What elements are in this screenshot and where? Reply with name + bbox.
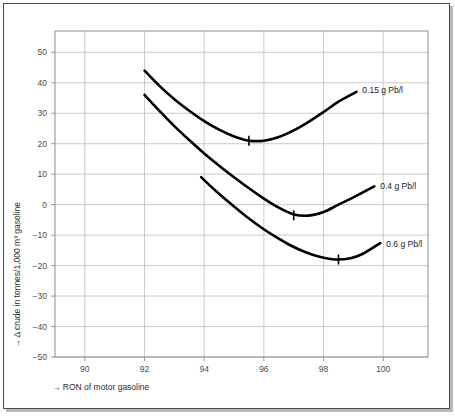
minimum-markers — [249, 136, 339, 265]
plot-frame — [55, 31, 428, 357]
series-curve — [145, 71, 357, 142]
y-tick-label: −30 — [33, 291, 48, 301]
series-labels: 0.15 g Pb/l0.4 g Pb/l0.6 g Pb/l — [362, 85, 422, 249]
figure-root: 9092949698100−50−40−30−20−1001020304050 … — [0, 0, 455, 416]
tick-labels: 9092949698100−50−40−30−20−1001020304050 — [33, 47, 391, 374]
gridlines — [55, 31, 428, 357]
y-tick-label: 10 — [38, 169, 48, 179]
y-tick-label: −20 — [33, 261, 48, 271]
x-tick-label: 92 — [140, 364, 150, 374]
data-curves — [145, 71, 381, 260]
y-axis-title: → Δ crude in tonnes/1,000 m³ gasoline — [12, 202, 22, 348]
series-label: 0.6 g Pb/l — [386, 239, 422, 249]
series-label: 0.15 g Pb/l — [362, 85, 403, 95]
plot-border — [55, 31, 428, 357]
y-tick-label: 20 — [38, 139, 48, 149]
series-curve — [201, 177, 380, 259]
y-tick-label: −10 — [33, 230, 48, 240]
x-tick-label: 90 — [80, 364, 90, 374]
y-tick-label: 40 — [38, 78, 48, 88]
y-tick-label: −40 — [33, 322, 48, 332]
y-tick-label: −50 — [33, 352, 48, 362]
x-tick-label: 98 — [319, 364, 329, 374]
x-tick-label: 96 — [259, 364, 269, 374]
x-axis-title: → RON of motor gasoline — [52, 382, 150, 392]
chart-canvas: 9092949698100−50−40−30−20−1001020304050 … — [0, 0, 455, 416]
y-tick-label: 30 — [38, 108, 48, 118]
line-chart: 9092949698100−50−40−30−20−1001020304050 … — [0, 0, 455, 416]
y-tick-label: 0 — [42, 200, 47, 210]
series-label: 0.4 g Pb/l — [380, 181, 416, 191]
x-tick-label: 100 — [376, 364, 390, 374]
x-tick-label: 94 — [199, 364, 209, 374]
y-tick-label: 50 — [38, 47, 48, 57]
